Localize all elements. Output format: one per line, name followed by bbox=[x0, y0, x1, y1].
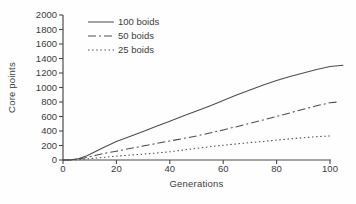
x-tick-label: 60 bbox=[218, 163, 229, 174]
y-tick-label: 1600 bbox=[36, 38, 57, 49]
y-tick-label: 200 bbox=[41, 140, 57, 151]
x-tick-label: 100 bbox=[322, 163, 338, 174]
y-tick-label: 400 bbox=[41, 125, 57, 136]
x-tick-label: 80 bbox=[271, 163, 282, 174]
y-tick-label: 800 bbox=[41, 96, 57, 107]
legend-label-100-boids: 100 boids bbox=[118, 16, 159, 27]
legend-label-50-boids: 50 boids bbox=[118, 30, 154, 41]
y-tick-label: 2000 bbox=[36, 9, 57, 20]
y-tick-label: 0 bbox=[52, 154, 57, 165]
x-tick-label: 0 bbox=[60, 163, 65, 174]
y-tick-label: 1200 bbox=[36, 67, 57, 78]
y-tick-label: 1000 bbox=[36, 82, 57, 93]
x-tick-label: 40 bbox=[165, 163, 176, 174]
y-tick-label: 1400 bbox=[36, 53, 57, 64]
x-axis-title: Generations bbox=[63, 178, 330, 189]
y-tick-label: 600 bbox=[41, 111, 57, 122]
series-line-50-boids bbox=[63, 102, 338, 160]
y-axis-title: Core points bbox=[6, 62, 17, 114]
legend-label-25-boids: 25 boids bbox=[118, 44, 154, 55]
x-tick-label: 20 bbox=[111, 163, 122, 174]
series-line-100-boids bbox=[63, 65, 343, 160]
chart-figure: 0204060801000200400600800100012001400160… bbox=[0, 0, 356, 204]
line-chart-canvas: 0204060801000200400600800100012001400160… bbox=[0, 0, 356, 204]
y-tick-label: 1800 bbox=[36, 24, 57, 35]
